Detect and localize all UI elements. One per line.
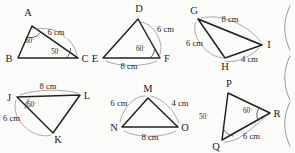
triangle-jkl: J K L 8 cm 60° 6 cm <box>3 81 90 145</box>
vertex-label-n: N <box>110 122 118 133</box>
triangle-pqr: P Q R 50° 60° 6 cm <box>199 78 281 152</box>
leader-side-qr-tail <box>224 138 239 142</box>
vertex-label-c: C <box>81 53 88 64</box>
vertex-label-k: K <box>54 134 62 145</box>
side-label-gh: 6 cm <box>186 38 203 48</box>
angle-label-a: 60° <box>25 37 34 45</box>
triangle-ghi-outline <box>198 19 262 58</box>
side-label-mo: 4 cm <box>172 98 189 108</box>
vertex-label-d: D <box>135 3 143 14</box>
angle-label-j: 60° <box>27 101 36 109</box>
vertex-label-f: F <box>164 53 170 64</box>
cut-arc-top <box>285 6 290 50</box>
triangle-def: D E F 6 cm 60° 8 cm <box>92 3 174 71</box>
cut-arc-middle <box>285 56 290 100</box>
angle-arc-r <box>257 108 259 120</box>
vertex-label-j: J <box>7 92 11 103</box>
vertex-label-m: M <box>143 83 153 94</box>
side-label-ac: 6 cm <box>48 27 65 37</box>
triangle-mno: M N O 6 cm 4 cm 8 cm <box>110 83 189 142</box>
vertex-label-l: L <box>84 90 90 101</box>
vertex-label-q: Q <box>212 141 220 152</box>
vertex-label-p: P <box>226 78 232 89</box>
side-label-jk: 6 cm <box>3 113 20 123</box>
vertex-label-h: H <box>221 61 229 72</box>
vertex-label-g: G <box>190 5 198 16</box>
angle-label-c: 50° <box>51 48 60 56</box>
triangle-abc: A B C 60° 50° 6 cm <box>5 7 88 64</box>
angle-label-q: 50° <box>199 113 208 121</box>
vertex-label-b: B <box>5 53 12 64</box>
side-label-ef: 8 cm <box>121 61 138 71</box>
vertex-label-i: I <box>267 39 271 50</box>
side-label-hi: 4 cm <box>241 54 258 64</box>
leader-side-df-tail <box>159 47 161 57</box>
vertex-label-r: R <box>273 108 280 119</box>
triangle-def-outline <box>103 19 160 58</box>
vertex-label-o: O <box>181 122 189 133</box>
angle-label-r: 60° <box>243 107 252 115</box>
cut-arc-bottom <box>285 102 290 146</box>
triangle-ghi: G H I 8 cm 6 cm 4 cm <box>186 5 271 72</box>
side-label-gi: 8 cm <box>222 14 239 24</box>
side-label-mn: 6 cm <box>111 98 128 108</box>
angle-label-f: 60° <box>136 45 145 53</box>
diagram-sheet: A B C 60° 50° 6 cm D E F 6 cm 60° 8 cm <box>0 0 295 153</box>
side-label-no: 8 cm <box>142 132 159 142</box>
side-label-jl: 8 cm <box>40 81 57 91</box>
leader-side-jk-tail <box>27 129 51 136</box>
side-label-qr: 6 cm <box>243 131 260 141</box>
vertex-label-e: E <box>92 53 98 64</box>
cut-off-bracket-arcs <box>285 6 290 146</box>
vertex-label-a: A <box>24 7 32 18</box>
side-label-df: 6 cm <box>157 24 174 34</box>
